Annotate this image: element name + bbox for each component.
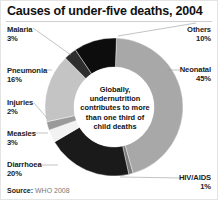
label-injuries: Injuries 2% [7,98,33,116]
label-others-pct: 10% [187,34,211,43]
center-line-4: than one third of [79,113,151,122]
label-diarrhoea-name: Diarrhoea [7,160,42,169]
label-neonatal-pct: 45% [180,74,211,83]
label-hiv-pct: 1% [179,182,211,191]
label-measles-name: Measles [7,129,36,138]
source-note: Source: WHO 2008 [7,187,70,194]
label-malaria-name: Malaria [7,25,32,34]
label-injuries-pct: 2% [7,107,33,116]
center-line-5: child deaths [79,122,151,131]
label-measles: Measles 3% [7,129,36,147]
label-pneumonia-name: Pneumonia [7,66,47,75]
label-others-name: Others [187,25,211,34]
center-line-3: contributes to more [79,103,151,112]
leader-others [118,23,196,36]
label-others: Others 10% [187,25,211,43]
label-diarrhoea-pct: 20% [7,169,42,178]
leader-hiv [120,177,182,178]
center-line-1: Globally, [79,85,151,94]
source-label: Source: [7,187,33,194]
center-annotation: Globally, undernutrition contributes to … [79,85,151,131]
label-hiv: HIV/AIDS 1% [179,173,211,191]
leader-malaria [33,28,71,55]
label-injuries-name: Injuries [7,98,33,107]
source-value: WHO 2008 [35,187,70,194]
label-pneumonia-pct: 16% [7,75,47,84]
label-neonatal: Neonatal 45% [180,65,211,83]
label-diarrhoea: Diarrhoea 20% [7,160,42,178]
label-neonatal-name: Neonatal [180,65,211,74]
label-malaria-pct: 3% [7,34,32,43]
label-hiv-name: HIV/AIDS [179,173,211,182]
label-malaria: Malaria 3% [7,25,32,43]
label-pneumonia: Pneumonia 16% [7,66,47,84]
center-line-2: undernutrition [79,94,151,103]
label-measles-pct: 3% [7,138,36,147]
